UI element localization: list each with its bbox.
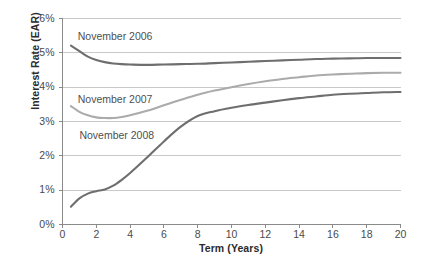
y-tick-label: 1%	[15, 183, 55, 195]
interest-rate-yield-curve-chart: Interest Rate (EAR) Term (Years) 0%1%2%3…	[0, 0, 425, 271]
series-label: November 2008	[79, 129, 154, 141]
x-tick-label: 4	[115, 228, 145, 240]
x-tick-label: 20	[386, 228, 416, 240]
x-tick-label: 18	[352, 228, 382, 240]
x-tick-label: 0	[48, 228, 78, 240]
x-tick-label: 16	[318, 228, 348, 240]
y-tick-label: 4%	[15, 80, 55, 92]
x-tick-label: 8	[183, 228, 213, 240]
y-tick-label: 3%	[15, 115, 55, 127]
y-tick-label: 2%	[15, 149, 55, 161]
x-tick-label: 6	[149, 228, 179, 240]
series-label: November 2006	[78, 30, 153, 42]
y-tick-label: 6%	[15, 12, 55, 24]
y-tick-label: 5%	[15, 46, 55, 58]
series-label: November 2007	[78, 93, 153, 105]
x-tick-label: 12	[250, 228, 280, 240]
x-tick-label: 2	[81, 228, 111, 240]
x-tick-label: 10	[217, 228, 247, 240]
x-tick-label: 14	[284, 228, 314, 240]
